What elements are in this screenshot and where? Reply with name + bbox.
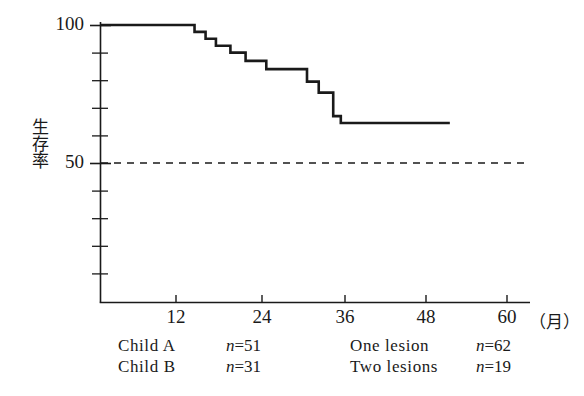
x-tick-label-60: 60 [487,306,527,328]
legend-block: Child A n=51 One lesion n=62 Child B n=3… [118,336,538,378]
n-value: 31 [244,357,261,376]
x-tick-label-48: 48 [406,306,446,328]
legend-entry-two-lesions: Two lesions n=19 [350,357,538,377]
legend-label-child-b: Child B [118,357,226,377]
survival-step-curve [100,25,450,123]
legend-n-child-a: n=51 [226,336,261,356]
n-symbol: n [476,357,485,376]
legend-label-one-lesion: One lesion [350,336,476,356]
n-value: 51 [244,336,261,355]
y-tick-label-100: 100 [22,13,84,35]
x-tick-label-24: 24 [242,306,282,328]
n-equals: = [235,336,245,355]
n-symbol: n [226,336,235,355]
survival-curve-figure: 生存率 100 50 12 24 36 48 60 （月） Child A n=… [0,0,584,396]
x-axis-unit-label: （月） [529,308,580,333]
legend-entry-one-lesion: One lesion n=62 [350,336,538,356]
legend-entry-child-b: Child B n=31 [118,357,350,377]
n-symbol: n [226,357,235,376]
n-symbol: n [476,336,485,355]
legend-n-one-lesion: n=62 [476,336,511,356]
x-ticks [176,295,507,302]
n-value: 19 [494,357,511,376]
legend-n-two-lesions: n=19 [476,357,511,377]
legend-row: Child B n=31 Two lesions n=19 [118,357,538,378]
x-tick-label-12: 12 [156,306,196,328]
n-equals: = [485,357,495,376]
n-equals: = [235,357,245,376]
legend-label-two-lesions: Two lesions [350,357,476,377]
legend-entry-child-a: Child A n=51 [118,336,350,356]
legend-n-child-b: n=31 [226,357,261,377]
x-tick-label-36: 36 [325,306,365,328]
n-value: 62 [494,336,511,355]
legend-row: Child A n=51 One lesion n=62 [118,336,538,357]
legend-label-child-a: Child A [118,336,226,356]
y-tick-label-50: 50 [40,151,84,173]
n-equals: = [485,336,495,355]
